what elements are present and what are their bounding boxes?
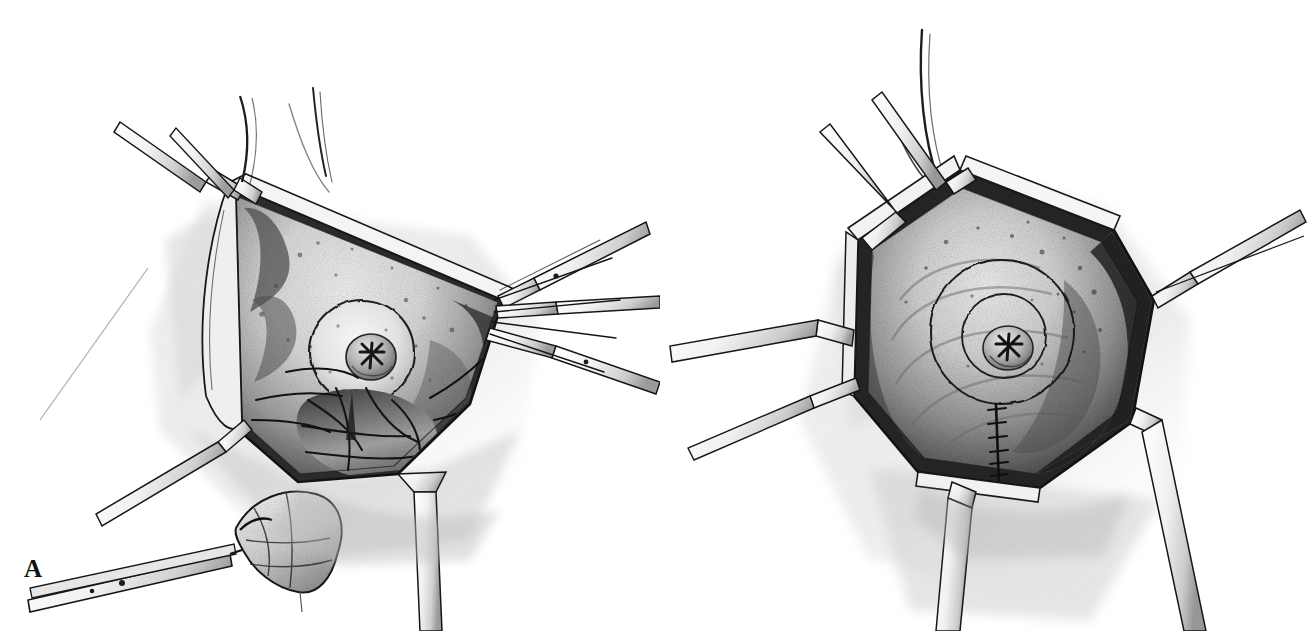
panel-b: B <box>660 0 1312 631</box>
areola-complex <box>310 300 414 404</box>
panel-a-label: A <box>24 556 43 581</box>
panel-a-illustration <box>0 0 660 631</box>
nipple <box>346 334 396 380</box>
panel-b-illustration <box>660 0 1312 631</box>
figure-root: A <box>0 0 1312 631</box>
panel-a: A <box>0 0 660 631</box>
nipple <box>983 326 1033 370</box>
